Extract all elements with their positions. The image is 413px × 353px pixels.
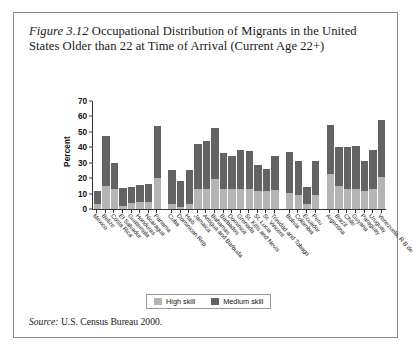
bar-segment-high-skill	[361, 191, 368, 210]
x-axis-tick-mark	[257, 210, 258, 213]
y-axis-tick-label: 70	[78, 97, 87, 106]
bar-segment-medium-skill	[194, 144, 201, 189]
bar-segment-medium-skill	[177, 181, 184, 206]
bar-segment-high-skill	[369, 189, 376, 209]
bar-segment-medium-skill	[111, 163, 118, 189]
bar-segment-high-skill	[335, 186, 342, 209]
bar-segment-high-skill	[136, 202, 143, 209]
bar-segment-medium-skill	[203, 141, 210, 189]
x-axis-tick-mark	[205, 210, 206, 213]
x-axis-tick-mark	[105, 210, 106, 213]
x-axis-tick-mark	[297, 210, 298, 213]
bar-segment-medium-skill	[168, 170, 175, 204]
x-axis-tick-mark	[96, 210, 97, 213]
bar-group	[326, 101, 335, 209]
source-label: Source:	[29, 316, 58, 327]
x-axis-tick-mark	[364, 210, 365, 213]
bar-group	[294, 101, 303, 209]
bar-segment-high-skill	[312, 195, 319, 209]
x-axis-tick-mark	[131, 210, 132, 213]
x-axis-tick-mark	[188, 210, 189, 213]
bar-segment-high-skill	[102, 186, 109, 209]
stacked-bar	[246, 151, 253, 209]
x-axis-tick-mark	[214, 210, 215, 213]
bar-segment-high-skill	[254, 191, 261, 210]
bar-segment-medium-skill	[361, 161, 368, 190]
legend-swatch-medium-skill-icon	[211, 298, 219, 305]
bar-group	[360, 101, 369, 209]
y-axis-tick-label: 0	[82, 205, 87, 214]
stacked-bar	[327, 125, 334, 209]
bar-group	[236, 101, 245, 209]
x-axis-tick-mark	[171, 210, 172, 213]
stacked-bar	[194, 144, 201, 209]
bar-group	[303, 101, 312, 209]
bar-group	[144, 101, 153, 209]
bar-group	[102, 101, 111, 209]
stacked-bar	[335, 147, 342, 209]
bar-segment-medium-skill	[369, 150, 376, 189]
x-axis-tick-mark	[139, 210, 140, 213]
bar-segment-high-skill	[295, 195, 302, 209]
bar-segment-medium-skill	[254, 165, 261, 190]
stacked-bar	[344, 147, 351, 209]
bar-segment-high-skill	[303, 204, 310, 209]
bar-segment-high-skill	[286, 193, 293, 209]
stacked-bar	[220, 153, 227, 209]
y-axis-tick-label: 60	[78, 112, 87, 121]
legend-item-high-skill: High skill	[154, 297, 195, 306]
stacked-bar	[119, 188, 126, 209]
bar-group	[262, 101, 271, 209]
x-axis-tick-mark	[197, 210, 198, 213]
x-axis-tick-mark	[381, 210, 382, 213]
x-axis-tick-mark	[223, 210, 224, 213]
bar-segment-medium-skill	[286, 152, 293, 193]
stacked-bar	[254, 165, 261, 209]
stacked-bar	[237, 150, 244, 209]
x-axis-tick-mark	[156, 210, 157, 213]
bar-group	[228, 101, 237, 209]
stacked-bar	[361, 161, 368, 209]
bar-segment-high-skill	[352, 189, 359, 209]
bar-segment-medium-skill	[228, 156, 235, 189]
chart-legend: High skill Medium skill	[146, 294, 271, 309]
stacked-bar	[136, 185, 143, 209]
x-axis-tick-mark	[274, 210, 275, 213]
bar-segment-high-skill	[327, 174, 334, 209]
legend-label-medium-skill: Medium skill	[223, 297, 263, 306]
stacked-bar	[263, 169, 270, 209]
bar-segment-medium-skill	[303, 187, 310, 205]
figure-title: Figure 3.12 Occupational Distribution of…	[29, 24, 381, 55]
x-axis-tick-mark	[355, 210, 356, 213]
bar-group	[219, 101, 228, 209]
y-axis-tick-label: 50	[78, 127, 87, 136]
bar-segment-high-skill	[94, 204, 101, 209]
bar-segment-high-skill	[119, 206, 126, 209]
y-axis-tick-label: 30	[78, 158, 87, 167]
bar-group	[377, 101, 386, 209]
y-axis-tick-label: 40	[78, 143, 87, 152]
chart-plot-area: Percent 010203040506070 MexicoBelizeCost…	[36, 101, 386, 231]
bar-segment-medium-skill	[312, 161, 319, 195]
bar-group	[194, 101, 203, 209]
stacked-bar	[303, 187, 310, 209]
x-axis-tick-mark	[122, 210, 123, 213]
stacked-bar	[286, 152, 293, 209]
stacked-bar	[369, 150, 376, 209]
bar-segment-medium-skill	[220, 153, 227, 189]
stacked-bar	[111, 163, 118, 209]
bar-group	[285, 101, 294, 209]
bar-segment-medium-skill	[119, 188, 126, 206]
x-axis-tick-mark	[113, 210, 114, 213]
x-axis-tick-mark	[289, 210, 290, 213]
bar-segment-high-skill	[128, 203, 135, 209]
bar-group	[202, 101, 211, 209]
bar-group	[254, 101, 263, 209]
x-axis-tick-mark	[248, 210, 249, 213]
bar-segment-medium-skill	[102, 136, 109, 186]
source-text: U.S. Census Bureau 2000.	[58, 316, 162, 327]
bar-segment-medium-skill	[271, 156, 278, 190]
x-axis-tick-mark	[372, 210, 373, 213]
legend-label-high-skill: High skill	[166, 297, 195, 306]
bar-group	[343, 101, 352, 209]
